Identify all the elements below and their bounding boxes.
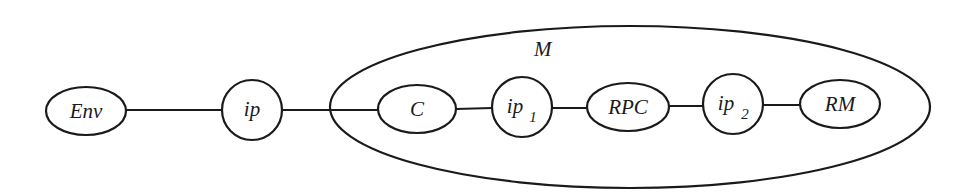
node-c-label: C (410, 97, 425, 121)
container-m-label: M (533, 37, 553, 61)
node-env-label: Env (69, 99, 103, 123)
node-ip[interactable]: ip (222, 80, 282, 140)
node-ip-label: ip (244, 97, 260, 121)
edge-c-ip1 (456, 108, 492, 109)
node-ip2-label: ip (718, 91, 734, 115)
node-ip2-subscript: 2 (741, 106, 749, 122)
node-env[interactable]: Env (46, 87, 126, 135)
node-rm-label: RM (824, 92, 857, 116)
node-rm[interactable]: RM (800, 80, 880, 128)
node-ip2[interactable]: ip 2 (703, 74, 763, 134)
node-ip1[interactable]: ip 1 (492, 77, 552, 137)
node-c[interactable]: C (378, 85, 456, 133)
node-rpc[interactable]: RPC (587, 83, 669, 131)
diagram-canvas: M Env ip C ip 1 RPC ip 2 RM (0, 0, 977, 195)
node-ip1-subscript: 1 (529, 109, 537, 125)
node-ip1-label: ip (507, 94, 523, 118)
node-rpc-label: RPC (607, 95, 649, 119)
